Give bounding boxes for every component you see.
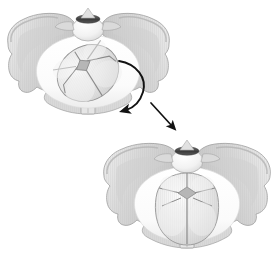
anatomy-illustration-canvas: Fetal head internal rotation within the … xyxy=(0,0,278,256)
figure-root: Fetal head internal rotation within the … xyxy=(0,0,278,256)
parietal-bone-left xyxy=(158,202,186,236)
frontal-bone-left xyxy=(160,176,182,192)
parietal-bone-right xyxy=(188,202,216,236)
frontal-bone-right xyxy=(192,176,214,192)
fetal-skull-lower xyxy=(155,173,218,245)
